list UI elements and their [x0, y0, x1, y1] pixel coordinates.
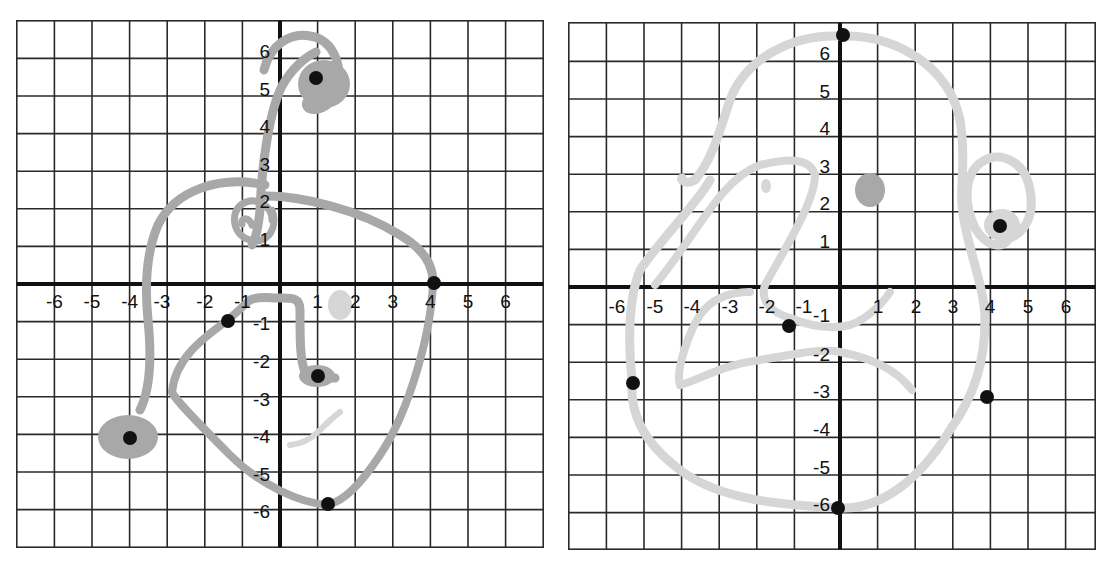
y-label: -5 — [253, 464, 270, 485]
x-label: -2 — [759, 296, 776, 317]
y-tick-labels: 6 5 4 3 2 1 -1 -2 -3 -4 -5 -6 — [813, 43, 830, 515]
y-label: -5 — [813, 457, 830, 478]
x-label: -4 — [121, 291, 138, 312]
dark-blobs — [855, 173, 885, 207]
point — [836, 28, 850, 42]
x-label: -3 — [722, 296, 739, 317]
point — [831, 501, 845, 515]
left-graph-panel: -6 -5 -4 -3 -2 -1 1 2 3 4 5 6 6 5 4 3 2 … — [0, 0, 550, 569]
axes — [569, 23, 1095, 549]
y-label: -6 — [813, 494, 830, 515]
x-label: 2 — [350, 291, 361, 312]
y-label: 4 — [259, 116, 270, 137]
right-coordinate-grid: -6 -5 -4 -3 -2 -1 1 2 3 4 5 6 6 5 4 3 2 … — [560, 0, 1102, 569]
y-label: 1 — [819, 231, 830, 252]
point — [321, 497, 335, 511]
x-label: -4 — [684, 296, 701, 317]
dark-blobs — [98, 60, 350, 459]
y-label: -3 — [813, 381, 830, 402]
y-label: 5 — [259, 79, 270, 100]
point — [309, 71, 323, 85]
x-label: -1 — [234, 291, 251, 312]
y-label: 5 — [819, 81, 830, 102]
x-label: 1 — [873, 296, 884, 317]
x-label: -6 — [46, 291, 63, 312]
y-label: 2 — [819, 193, 830, 214]
y-label: 3 — [819, 156, 830, 177]
point — [993, 219, 1007, 233]
point — [980, 390, 994, 404]
y-label: -1 — [813, 305, 830, 326]
x-label: -3 — [154, 291, 171, 312]
y-label: -3 — [253, 389, 270, 410]
x-label: -5 — [647, 296, 664, 317]
point — [311, 369, 325, 383]
right-graph-panel: -6 -5 -4 -3 -2 -1 1 2 3 4 5 6 6 5 4 3 2 … — [560, 0, 1102, 569]
y-label: 6 — [819, 43, 830, 64]
y-tick-labels: 6 5 4 3 2 1 -1 -2 -3 -4 -5 -6 — [253, 41, 270, 522]
y-label: 6 — [259, 41, 270, 62]
x-label: 2 — [911, 296, 922, 317]
x-label: -5 — [84, 291, 101, 312]
point — [221, 314, 235, 328]
x-label: -1 — [796, 296, 813, 317]
y-label: 4 — [819, 118, 830, 139]
point — [782, 319, 796, 333]
y-label: -1 — [253, 313, 270, 334]
x-tick-labels: -6 -5 -4 -3 -2 -1 1 2 3 4 5 6 — [40, 291, 511, 313]
x-label: 4 — [985, 296, 996, 317]
x-label: 6 — [1061, 296, 1072, 317]
y-label: -4 — [253, 426, 270, 447]
x-label: 5 — [1023, 296, 1034, 317]
y-label: -2 — [813, 344, 830, 365]
x-label: -6 — [609, 296, 626, 317]
y-label: -4 — [813, 419, 830, 440]
y-label: 2 — [259, 191, 270, 212]
y-label: -6 — [253, 501, 270, 522]
point — [626, 376, 640, 390]
y-label: 3 — [259, 154, 270, 175]
x-label: 6 — [500, 291, 511, 312]
point — [427, 276, 441, 290]
left-coordinate-grid: -6 -5 -4 -3 -2 -1 1 2 3 4 5 6 6 5 4 3 2 … — [0, 0, 550, 569]
point — [123, 431, 137, 445]
x-label: 3 — [948, 296, 959, 317]
x-label: 1 — [312, 291, 323, 312]
x-label: -2 — [196, 291, 213, 312]
x-label: 3 — [388, 291, 399, 312]
x-label: 5 — [463, 291, 474, 312]
x-label: 4 — [425, 291, 436, 312]
y-label: -2 — [253, 351, 270, 372]
y-label: 1 — [259, 229, 270, 250]
